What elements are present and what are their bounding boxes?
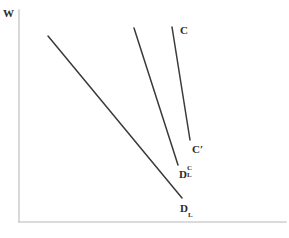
figure-container: W C C′ DCL DL (0, 0, 289, 238)
curve-label-dl-subscript: L (188, 211, 193, 219)
curve-label-dlc-base: D (179, 168, 187, 180)
curve-label-dlc: DCL (179, 165, 192, 181)
y-axis-label-text: W (3, 7, 14, 19)
curve-label-dl-base: D (180, 202, 188, 214)
curve-label-dl: DL (180, 199, 193, 218)
curve-label-c-text: C (180, 24, 188, 36)
curve-label-dlc-subscript: L (187, 172, 192, 179)
curve-label-c: C (180, 21, 188, 37)
curve-label-dlc-scripts: CL (187, 167, 192, 178)
curve-compensated-demand-dlc (134, 28, 178, 165)
y-axis-label: W (3, 4, 14, 20)
curve-label-c-prime: C′ (192, 140, 203, 156)
plot-canvas (0, 0, 289, 238)
curve-compensation-c (172, 27, 190, 140)
curve-label-c-prime-text: C′ (192, 143, 203, 155)
